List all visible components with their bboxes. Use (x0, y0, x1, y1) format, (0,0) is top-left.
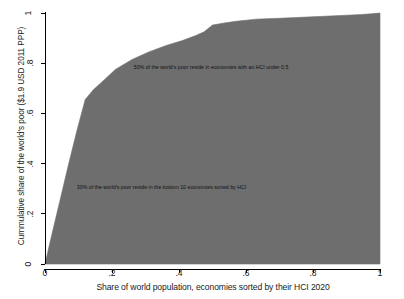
plot-canvas (0, 0, 404, 299)
y-tick-label: .2 (25, 210, 35, 217)
annotation-hci-under-half: 50% of the world's poor reside in econom… (134, 64, 289, 70)
x-tick-label: .6 (242, 268, 249, 278)
x-tick-label: .8 (309, 268, 316, 278)
x-tick-label: .2 (108, 268, 115, 278)
y-tick-label: .6 (25, 110, 35, 117)
y-tick-label: .4 (25, 160, 35, 167)
x-tick-label: 0 (43, 268, 48, 278)
annotation-bottom-ten: 30% of the world's poor reside in the bo… (77, 184, 246, 190)
area-series-group (45, 13, 380, 264)
x-tick-label: .4 (175, 268, 182, 278)
x-tick-label: 1 (378, 268, 383, 278)
y-tick-label: 1 (23, 11, 33, 16)
area-fill (45, 13, 380, 264)
y-tick-label: .8 (25, 60, 35, 67)
x-axis-title: Share of world population, economies sor… (45, 282, 381, 292)
y-tick-label: 0 (23, 262, 33, 267)
chart-figure: Cummulative share of the world's poor ($… (0, 0, 404, 299)
